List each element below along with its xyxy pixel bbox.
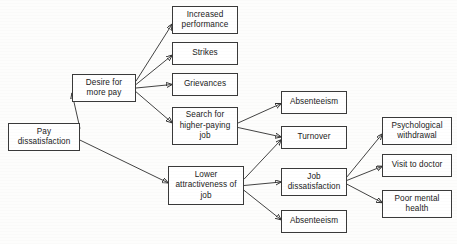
node-psychological-withdrawal[interactable]: Psychologicalwithdrawal <box>382 117 452 145</box>
node-label: Increasedperformance <box>175 10 235 31</box>
node-absenteeism-top[interactable]: Absenteeism <box>281 91 347 114</box>
node-job-dissatisfaction[interactable]: Jobdissatisfaction <box>281 168 347 196</box>
node-label: Paydissatisfaction <box>11 127 77 148</box>
node-turnover[interactable]: Turnover <box>281 126 347 149</box>
node-visit-to-doctor[interactable]: Visit to doctor <box>382 154 452 177</box>
node-pay-dissatisfaction[interactable]: Paydissatisfaction <box>8 123 80 151</box>
node-label: Turnover <box>284 132 344 143</box>
edge-desire_more_pay-to-strikes <box>136 55 172 84</box>
edge-search_higher_paying-to-absenteeism_top <box>238 104 281 123</box>
node-label: Absenteeism <box>284 97 344 108</box>
flowchart-diagram: Paydissatisfaction Desire formore pay In… <box>0 0 457 244</box>
edge-job_dissatisfaction-to-psychological_withdrawal <box>347 134 382 177</box>
node-label: Psychologicalwithdrawal <box>385 121 449 142</box>
node-label: Lowerattractiveness ofjob <box>171 170 241 202</box>
edge-job_dissatisfaction-to-poor_mental_health <box>347 184 382 202</box>
node-desire-for-more-pay[interactable]: Desire formore pay <box>72 74 136 102</box>
node-label: Desire formore pay <box>75 78 133 99</box>
edge-pay_dissatisfaction-to-lower_attractiveness <box>80 140 168 183</box>
edge-lower_attractiveness-to-absenteeism_bottom <box>244 190 281 219</box>
node-absenteeism-bottom[interactable]: Absenteeism <box>281 210 347 233</box>
node-strikes[interactable]: Strikes <box>172 42 238 65</box>
node-label: Absenteeism <box>284 216 344 227</box>
edge-job_dissatisfaction-to-visit_to_doctor <box>347 166 382 180</box>
node-lower-attractiveness-of-job[interactable]: Lowerattractiveness ofjob <box>168 166 244 205</box>
edge-search_higher_paying-to-turnover <box>238 128 281 137</box>
edge-desire_more_pay-to-search_higher_paying <box>136 92 172 123</box>
node-increased-performance[interactable]: Increasedperformance <box>172 6 238 34</box>
node-label: Strikes <box>175 48 235 59</box>
edge-lower_attractiveness-to-turnover <box>244 140 281 179</box>
edge-desire_more_pay-to-grievances <box>136 85 172 89</box>
node-label: Grievances <box>175 79 235 90</box>
node-label: Jobdissatisfaction <box>284 172 344 193</box>
node-grievances[interactable]: Grievances <box>172 73 238 96</box>
node-label: Visit to doctor <box>385 160 449 171</box>
edge-lower_attractiveness-to-job_dissatisfaction <box>244 182 281 186</box>
edge-desire_more_pay-to-increased_performance <box>136 24 172 81</box>
node-label: Poor mentalhealth <box>385 194 449 215</box>
node-label: Search forhigher-payingjob <box>175 110 235 142</box>
node-poor-mental-health[interactable]: Poor mentalhealth <box>382 190 452 218</box>
node-search-for-higher-paying-job[interactable]: Search forhigher-payingjob <box>172 107 238 145</box>
